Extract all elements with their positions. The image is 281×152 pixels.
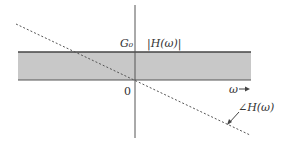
frequency-axis-label: ω: [229, 84, 238, 95]
omega-arrowhead-icon: [245, 87, 250, 92]
gain-label: G₀: [120, 38, 133, 49]
phase-label: ∠H(ω): [238, 102, 274, 113]
diagram-canvas: [0, 0, 281, 152]
magnitude-label: |H(ω)|: [147, 38, 182, 49]
origin-label: 0: [124, 86, 131, 97]
